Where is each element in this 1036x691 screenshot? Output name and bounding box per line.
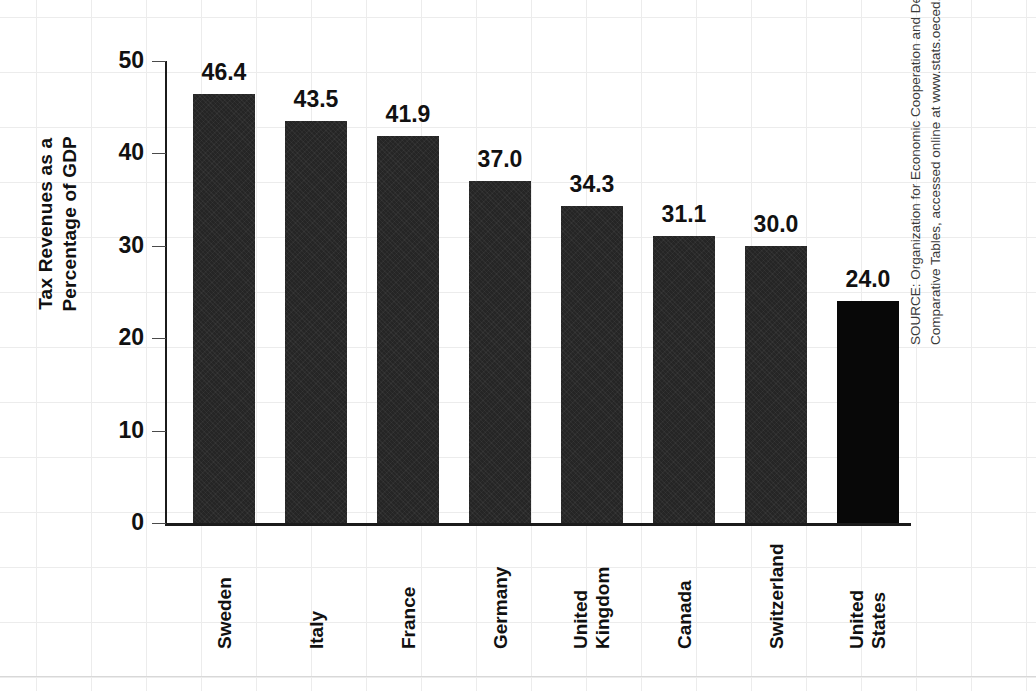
- bar: [837, 301, 899, 523]
- bar: [285, 121, 347, 523]
- bar: [193, 94, 255, 523]
- y-tick-label: 0: [24, 511, 144, 534]
- bar: [745, 246, 807, 523]
- x-category-label: United States: [846, 529, 891, 649]
- x-category-label: Canada: [674, 529, 696, 649]
- source-note: SOURCE: Organization for Economic Cooper…: [906, 0, 945, 345]
- y-axis-title: Tax Revenues as aPercentage of GDP: [34, 84, 82, 364]
- bar: [561, 206, 623, 523]
- y-tick-mark: [152, 338, 166, 339]
- y-tick-label: 10: [24, 419, 144, 442]
- x-category-label: Switzerland: [766, 529, 788, 649]
- y-tick-mark: [152, 431, 166, 432]
- y-axis-line: [165, 61, 167, 525]
- x-category-label: France: [398, 529, 420, 649]
- bar: [469, 181, 531, 523]
- x-axis-line: [165, 523, 911, 526]
- y-tick-mark: [152, 523, 166, 524]
- x-category-label: Italy: [306, 529, 328, 649]
- bar-chart-plot: 01020304050 Tax Revenues as aPercentage …: [0, 0, 1036, 691]
- x-category-label: Sweden: [214, 529, 236, 649]
- y-tick-mark: [152, 61, 166, 62]
- y-axis-title-line2: Percentage of GDP: [59, 136, 80, 312]
- chart-page: 01020304050 Tax Revenues as aPercentage …: [0, 0, 1036, 691]
- x-category-label: Germany: [490, 529, 512, 649]
- bar: [377, 136, 439, 523]
- bar-value-label: 41.9: [353, 103, 463, 126]
- y-tick-mark: [152, 153, 166, 154]
- bar-value-label: 30.0: [721, 213, 831, 236]
- y-tick-label: 50: [24, 49, 144, 72]
- bar-value-label: 34.3: [537, 173, 647, 196]
- bar: [653, 236, 715, 523]
- x-category-label: United Kingdom: [570, 529, 615, 649]
- bar-value-label: 37.0: [445, 148, 555, 171]
- bar-value-label: 46.4: [169, 61, 279, 84]
- y-axis-title-line1: Tax Revenues as a: [35, 138, 56, 310]
- y-tick-mark: [152, 246, 166, 247]
